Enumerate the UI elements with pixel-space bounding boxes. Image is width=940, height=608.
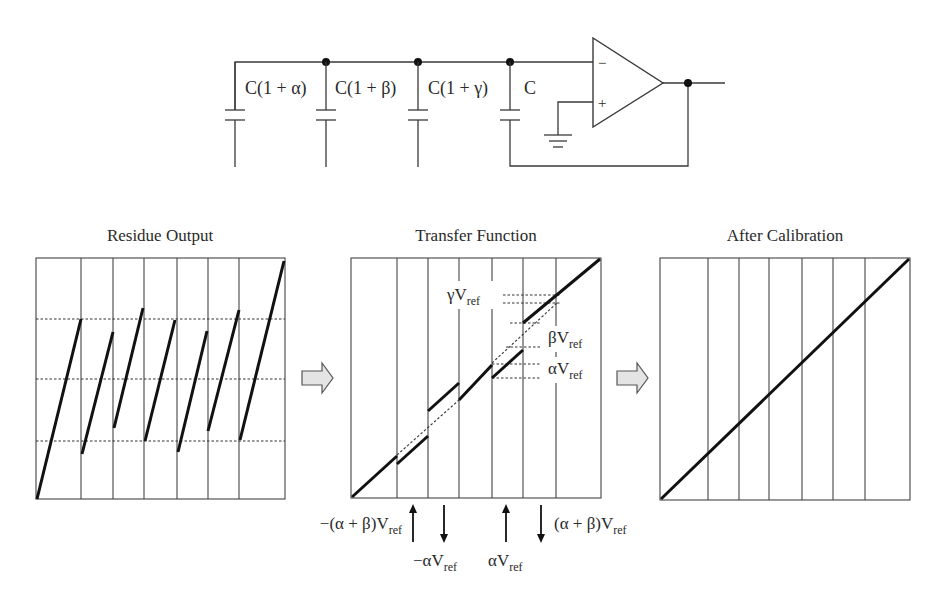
up-arrow-icon [502, 504, 510, 542]
alpha-plus-beta-vref-label: (α + β)Vref [554, 514, 627, 537]
panel-residue-output: Residue Output [36, 226, 285, 499]
calibrated-linear-transfer [661, 259, 909, 499]
down-arrow-icon [440, 505, 448, 543]
capacitor-array-circuit: C(1 + α) C(1 + β) C(1 + γ) C [225, 38, 725, 167]
right-block-arrow-icon [302, 363, 333, 393]
panel-title: After Calibration [727, 226, 844, 245]
capacitor-c-1-plus-gamma: C(1 + γ) [408, 62, 488, 167]
down-arrow-icon [537, 505, 545, 543]
capacitor-label: C [524, 78, 536, 98]
inverting-input-sign: − [598, 55, 606, 71]
capacitor-c-1-plus-alpha: C(1 + α) [225, 62, 307, 167]
pipelined-adc-calibration-figure: C(1 + α) C(1 + β) C(1 + γ) C [0, 0, 940, 608]
plus-input-wire [558, 102, 593, 135]
capacitor-label: C(1 + γ) [428, 78, 488, 99]
panel-title: Transfer Function [415, 226, 537, 245]
right-block-arrow-icon [617, 363, 648, 393]
op-amp: − + [544, 38, 725, 147]
residue-sawtooth-curve [37, 261, 284, 499]
neg-alpha-plus-beta-vref-label: −(α + β)Vref [320, 514, 402, 537]
ground-icon [544, 135, 572, 147]
up-arrow-icon [409, 504, 417, 542]
noninverting-input-sign: + [598, 95, 606, 111]
output-node-dot [684, 79, 692, 87]
capacitor-c-1-plus-beta: C(1 + β) [316, 62, 396, 167]
panel-title: Residue Output [107, 226, 214, 245]
panel-transfer-function: Transfer Function [320, 226, 627, 574]
capacitor-label: C(1 + β) [335, 78, 396, 99]
alpha-vref-axis-label: αVref [488, 551, 523, 574]
capacitor-label: C(1 + α) [245, 78, 307, 99]
panel-after-calibration: After Calibration [660, 226, 910, 500]
axis-shift-arrows [409, 504, 545, 543]
op-amp-triangle [593, 38, 663, 127]
neg-alpha-vref-label: −αVref [413, 551, 457, 574]
